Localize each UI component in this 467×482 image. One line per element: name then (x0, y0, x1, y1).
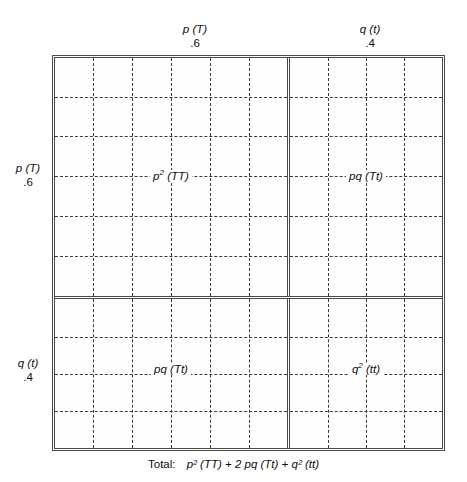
row-header-q-symbol: q (t) (4, 356, 52, 370)
quadrant-top-left-p2-tt: p2 (TT) (55, 58, 287, 296)
quadrant-divider-vertical (287, 58, 290, 448)
grid-line-horizontal (290, 337, 442, 338)
genotype-label-bottom-right: q2 (tt) (290, 363, 442, 375)
grid-line-horizontal (55, 337, 287, 338)
column-header-p-frequency: .6 (120, 36, 270, 50)
quadrant-top-right-pq-tt: pq (Tt) (290, 58, 442, 296)
total-label: Total: (148, 458, 176, 470)
grid-line-horizontal (290, 216, 442, 217)
row-header-q: q (t) .4 (4, 356, 52, 384)
row-header-p-symbol: p (T) (4, 161, 52, 175)
column-header-q-symbol: q (t) (300, 22, 440, 36)
row-header-p-frequency: .6 (4, 175, 52, 189)
genotype-label-top-left: p2 (TT) (55, 170, 287, 182)
genotype-label-top-right-text: pq (349, 170, 362, 182)
punnett-square-frame: p2 (TT) pq (Tt) (52, 55, 445, 451)
total-line: Total: p² (TT) + 2 pq (Tt) + q² (tt) (0, 458, 467, 470)
grid-line-horizontal (290, 136, 442, 137)
grid-line-horizontal (55, 136, 287, 137)
row-header-q-frequency: .4 (4, 370, 52, 384)
grid-line-horizontal (55, 411, 287, 412)
genotype-label-top-left-genotype: (TT) (167, 170, 189, 182)
genotype-label-bottom-left-genotype: (Tt) (170, 363, 188, 375)
column-header-q-frequency: .4 (300, 36, 440, 50)
grid-line-horizontal (55, 256, 287, 257)
genotype-label-bottom-right-genotype: (tt) (366, 363, 380, 375)
genotype-label-bottom-right-exponent: 2 (358, 361, 362, 370)
row-header-p: p (T) .6 (4, 161, 52, 189)
grid-line-horizontal (290, 411, 442, 412)
quadrant-bottom-right-q2-tt: q2 (tt) (290, 299, 442, 448)
quadrant-divider-horizontal (55, 296, 442, 299)
quadrant-bottom-left-pq-tt: pq (Tt) (55, 299, 287, 448)
grid-line-horizontal (290, 256, 442, 257)
grid-line-horizontal (55, 97, 287, 98)
grid-line-horizontal (55, 216, 287, 217)
column-header-p-symbol: p (T) (120, 22, 270, 36)
column-header-q: q (t) .4 (300, 22, 440, 50)
genotype-label-top-right-genotype: (Tt) (365, 170, 383, 182)
genotype-label-bottom-left: pq (Tt) (55, 363, 287, 375)
genotype-label-top-left-exponent: 2 (160, 168, 164, 177)
hardy-weinberg-diagram: p (T) .6 q (t) .4 p (T) .6 q (t) .4 p2 (… (0, 0, 467, 482)
grid-line-horizontal (290, 97, 442, 98)
column-header-p: p (T) .6 (120, 22, 270, 50)
total-expression: p² (TT) + 2 pq (Tt) + q² (tt) (187, 458, 319, 470)
genotype-label-top-right: pq (Tt) (290, 170, 442, 182)
genotype-label-bottom-left-text: pq (154, 363, 167, 375)
